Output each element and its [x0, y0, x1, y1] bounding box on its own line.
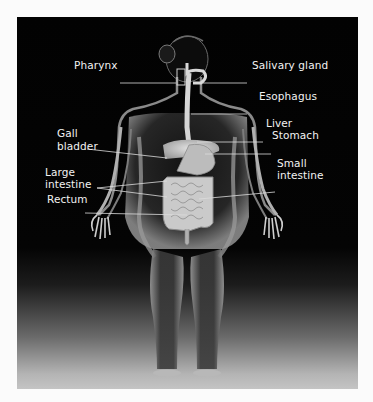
label-esophagus: Esophagus — [259, 91, 317, 102]
anatomy-figure: Pharynx Salivary gland Esophagus Liver S… — [17, 17, 358, 389]
label-liver: Liver — [266, 118, 292, 129]
label-pharynx: Pharynx — [74, 60, 118, 71]
legs — [150, 249, 224, 377]
label-small-intestine-line1: Small — [277, 158, 307, 169]
label-stomach: Stomach — [272, 130, 319, 141]
label-small-intestine-line2: intestine — [277, 170, 324, 181]
label-gall-bladder-line2: bladder — [57, 141, 98, 152]
label-gall-bladder-line1: Gall — [57, 128, 78, 139]
label-salivary-gland: Salivary gland — [252, 60, 328, 71]
label-large-intestine-line2: intestine — [45, 179, 92, 190]
head — [159, 36, 208, 82]
label-rectum: Rectum — [47, 194, 88, 205]
label-large-intestine-line1: Large — [45, 167, 75, 178]
